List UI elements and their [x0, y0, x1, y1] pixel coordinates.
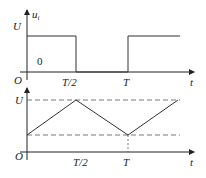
x-axis-label: t	[190, 76, 194, 88]
y-tick-u: U	[15, 94, 24, 106]
x-tick-half: T/2	[73, 156, 88, 168]
square-wave-chart: ui U 0 O T/2 T t	[13, 8, 194, 88]
triangle-wave	[27, 100, 178, 135]
triangle-wave-chart: U O T/2 T t	[15, 88, 194, 168]
x-tick-full: T	[123, 156, 130, 168]
x-tick-half: T/2	[62, 76, 77, 88]
x-axis-label: t	[190, 156, 194, 168]
zero-label: 0	[37, 55, 43, 67]
y-tick-u: U	[13, 20, 22, 32]
x-tick-full: T	[123, 76, 130, 88]
origin-label: O	[15, 150, 23, 162]
origin-label: O	[14, 74, 22, 86]
waveform-diagram: ui U 0 O T/2 T t U O T/2 T t	[0, 0, 206, 178]
square-wave	[27, 36, 180, 72]
y-axis-label: ui	[32, 8, 40, 22]
